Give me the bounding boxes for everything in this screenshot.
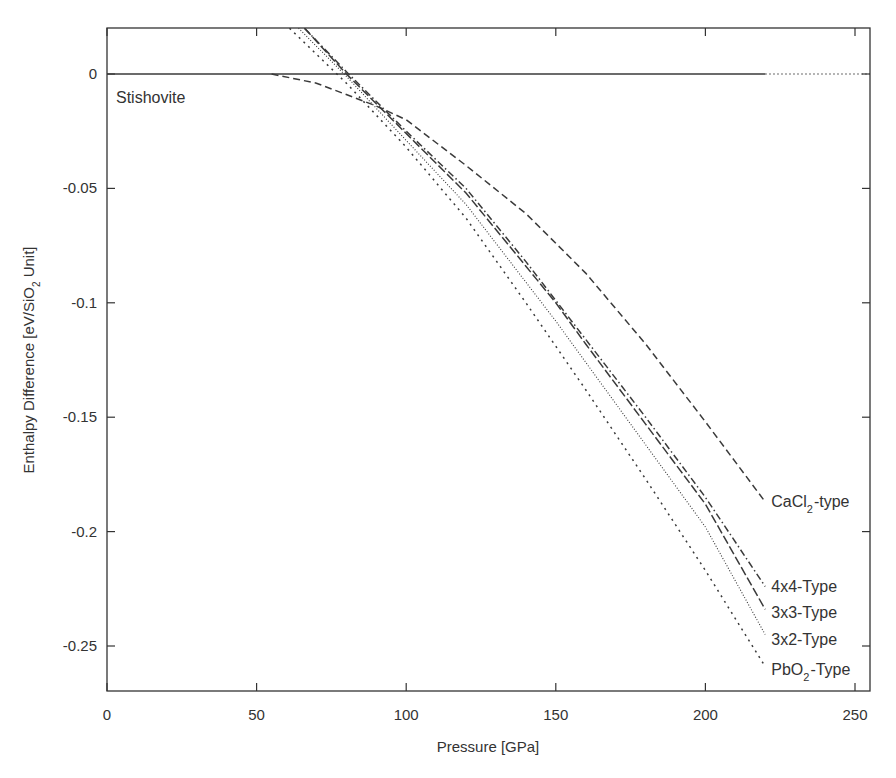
x-tick-label: 200 [693,706,718,723]
y-tick-label: -0.15 [63,408,97,425]
series-label-cacl2-type: CaCl2-type [771,493,849,515]
series-line-pbo2-type [290,28,766,666]
y-tick-label: -0.25 [63,637,97,654]
y-tick-label: -0.05 [63,179,97,196]
stishovite-reference-line: Stishovite [107,74,870,106]
series-label-4x4-type: 4x4-Type [771,578,837,595]
y-tick-label: -0.1 [71,294,97,311]
x-axis-title: Pressure [GPa] [437,738,540,755]
y-axis: 0-0.05-0.1-0.15-0.2-0.25 [63,65,870,654]
x-tick-label: 0 [103,706,111,723]
y-axis-title-main: Enthalpy Difference [eV/SiO [20,287,37,474]
y-axis-title-tail: Unit] [20,246,37,281]
series-lines [272,28,766,666]
series-line-3x2-type [299,28,766,634]
x-axis: 050100150200250 [103,28,868,723]
series-label-pbo2-type: PbO2-Type [771,661,850,683]
enthalpy-chart: 050100150200250 0-0.05-0.1-0.15-0.2-0.25… [0,0,896,778]
x-tick-label: 250 [842,706,867,723]
svg-text:Enthalpy Difference [eV/SiO2 U: Enthalpy Difference [eV/SiO2 Unit] [20,246,42,473]
y-tick-label: 0 [89,65,97,82]
series-label-3x2-type: 3x2-Type [771,631,837,648]
x-tick-label: 100 [394,706,419,723]
x-tick-label: 150 [543,706,568,723]
y-axis-title: Enthalpy Difference [eV/SiO2 Unit] [20,246,42,473]
y-tick-label: -0.2 [71,523,97,540]
series-labels: CaCl2-type4x4-Type3x3-Type3x2-TypePbO2-T… [771,493,850,683]
series-label-3x3-type: 3x3-Type [771,604,837,621]
x-tick-label: 50 [248,706,265,723]
series-line-cacl2-type [272,74,766,502]
stishovite-label: Stishovite [116,89,185,106]
series-line-3x3-type [305,28,766,609]
